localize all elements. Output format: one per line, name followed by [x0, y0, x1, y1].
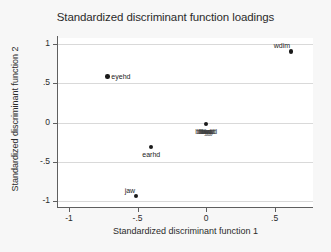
point-label-wdim: wdim: [274, 42, 290, 49]
gridline-y-2: [58, 123, 313, 124]
y-tick-4: [53, 201, 57, 202]
y-tick-label-3: -.5: [0, 156, 50, 166]
gridline-y-1: [58, 83, 313, 84]
y-tick-label-0: 1: [0, 38, 50, 48]
gridline-y-4: [58, 201, 313, 202]
y-tick-label-2: 0: [0, 117, 50, 127]
gridline-y-3: [58, 162, 313, 163]
y-tick-1: [53, 83, 57, 84]
x-tick-label-0: -1: [54, 213, 84, 223]
discriminant-loadings-chart: Standardized discriminant function loadi…: [0, 0, 331, 252]
x-tick-label-2: 0: [191, 213, 221, 223]
point-label-earhd: earhd: [142, 151, 160, 158]
y-tick-2: [53, 123, 57, 124]
y-tick-label-4: -1: [0, 195, 50, 205]
x-tick-label-1: -.5: [123, 213, 153, 223]
y-tick-0: [53, 44, 57, 45]
x-tick-2: [206, 208, 207, 212]
x-tick-1: [138, 208, 139, 212]
plot-area: [58, 38, 313, 207]
y-axis-line: [57, 36, 58, 208]
x-axis-title: Standardized discriminant function 1: [58, 226, 313, 236]
point-label-eyehd: eyehd: [111, 73, 130, 80]
y-tick-3: [53, 162, 57, 163]
point-label-cluster: blwyd: [198, 128, 213, 135]
x-tick-0: [69, 208, 70, 212]
x-tick-label-3: .5: [260, 213, 290, 223]
y-tick-label-1: .5: [0, 77, 50, 87]
data-point-eyehd: [105, 74, 110, 79]
point-label-jaw: jaw: [125, 187, 136, 194]
data-point-wdim: [289, 49, 294, 54]
x-tick-3: [275, 208, 276, 212]
chart-title: Standardized discriminant function loadi…: [0, 11, 331, 23]
